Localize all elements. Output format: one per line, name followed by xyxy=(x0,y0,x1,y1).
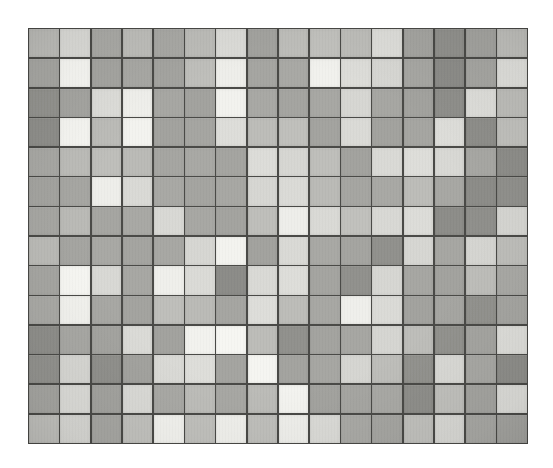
grid-cell xyxy=(216,385,246,413)
grid-cell xyxy=(435,207,465,235)
grid-cell xyxy=(29,29,59,57)
grid-cell xyxy=(466,118,496,146)
grid-cell xyxy=(154,355,184,383)
grid-cell xyxy=(123,326,153,354)
grid-cell xyxy=(216,177,246,205)
grid-cell xyxy=(60,148,90,176)
grid-cell xyxy=(123,118,153,146)
grid-cell xyxy=(60,59,90,87)
grid-cell xyxy=(466,207,496,235)
grid-cell xyxy=(279,237,309,265)
grid-cell xyxy=(60,296,90,324)
grid-cell xyxy=(341,89,371,117)
grid-cell xyxy=(310,29,340,57)
grid-cell xyxy=(216,207,246,235)
grid-cell xyxy=(372,59,402,87)
grid-cell xyxy=(372,177,402,205)
grid-cell xyxy=(216,355,246,383)
grid-cell xyxy=(279,118,309,146)
grid-cell xyxy=(123,177,153,205)
grid-cell xyxy=(435,59,465,87)
grid-cell xyxy=(372,266,402,294)
grid-cell xyxy=(497,29,527,57)
grid-cell xyxy=(466,296,496,324)
grid-cell xyxy=(372,326,402,354)
grid-cell xyxy=(497,118,527,146)
grid-cell xyxy=(404,355,434,383)
grid-cell xyxy=(310,415,340,443)
grid-cell xyxy=(372,118,402,146)
grid-cell xyxy=(248,118,278,146)
grid-cell xyxy=(435,29,465,57)
grid-cell xyxy=(466,59,496,87)
grid-cell xyxy=(185,355,215,383)
grid-cell xyxy=(435,385,465,413)
grid-cell xyxy=(310,207,340,235)
grid-cell xyxy=(279,59,309,87)
grid-cell xyxy=(341,177,371,205)
grid-cell xyxy=(341,266,371,294)
grid-cell xyxy=(404,415,434,443)
grid-cell xyxy=(497,385,527,413)
grid-cell xyxy=(497,89,527,117)
grid-cell xyxy=(216,415,246,443)
grid-cell xyxy=(123,415,153,443)
grid-cell xyxy=(497,415,527,443)
grid-cell xyxy=(60,266,90,294)
grid-cell xyxy=(310,355,340,383)
grid-cell xyxy=(29,148,59,176)
grid-cell xyxy=(216,89,246,117)
grid-cell xyxy=(372,415,402,443)
grid-cell xyxy=(466,385,496,413)
grid-cell xyxy=(497,207,527,235)
grid-cell xyxy=(341,59,371,87)
grid-cell xyxy=(154,385,184,413)
grid-cell xyxy=(435,89,465,117)
grid-cell xyxy=(341,118,371,146)
grid-cell xyxy=(123,296,153,324)
grid-cell xyxy=(29,415,59,443)
grid-cell xyxy=(92,237,122,265)
grid-cell xyxy=(466,29,496,57)
grid-cell xyxy=(92,355,122,383)
grid-cell xyxy=(435,266,465,294)
grid-cell xyxy=(29,207,59,235)
grid-cell xyxy=(154,148,184,176)
grid-cell xyxy=(404,385,434,413)
grid-cell xyxy=(248,385,278,413)
grid-cell xyxy=(372,89,402,117)
grid-cell xyxy=(435,415,465,443)
grid-cell xyxy=(123,59,153,87)
grid-cell xyxy=(279,385,309,413)
grid-cell xyxy=(372,237,402,265)
grid-cell xyxy=(92,385,122,413)
grid-cell xyxy=(123,207,153,235)
grid-cell xyxy=(92,29,122,57)
grid-cell xyxy=(341,207,371,235)
grid-cell xyxy=(435,355,465,383)
grid-cell xyxy=(185,266,215,294)
grid-cell xyxy=(29,118,59,146)
grid-cell xyxy=(123,89,153,117)
grid-cell xyxy=(123,148,153,176)
grid-cell xyxy=(60,237,90,265)
grid-cell xyxy=(60,355,90,383)
grid-cell xyxy=(92,177,122,205)
grid-cell xyxy=(248,326,278,354)
grid-cell xyxy=(310,177,340,205)
grid-cell xyxy=(216,266,246,294)
grid-cell xyxy=(310,118,340,146)
grid-cell xyxy=(341,29,371,57)
grid-cell xyxy=(279,148,309,176)
grid-cell xyxy=(29,385,59,413)
grid-cell xyxy=(435,326,465,354)
grid-cell xyxy=(92,207,122,235)
grid-cell xyxy=(404,89,434,117)
grid-cell xyxy=(248,29,278,57)
grid-cell xyxy=(60,118,90,146)
grid-cell xyxy=(466,148,496,176)
grid-cell xyxy=(497,326,527,354)
grid-cell xyxy=(497,148,527,176)
grid-cell xyxy=(185,29,215,57)
grid-cell xyxy=(29,296,59,324)
